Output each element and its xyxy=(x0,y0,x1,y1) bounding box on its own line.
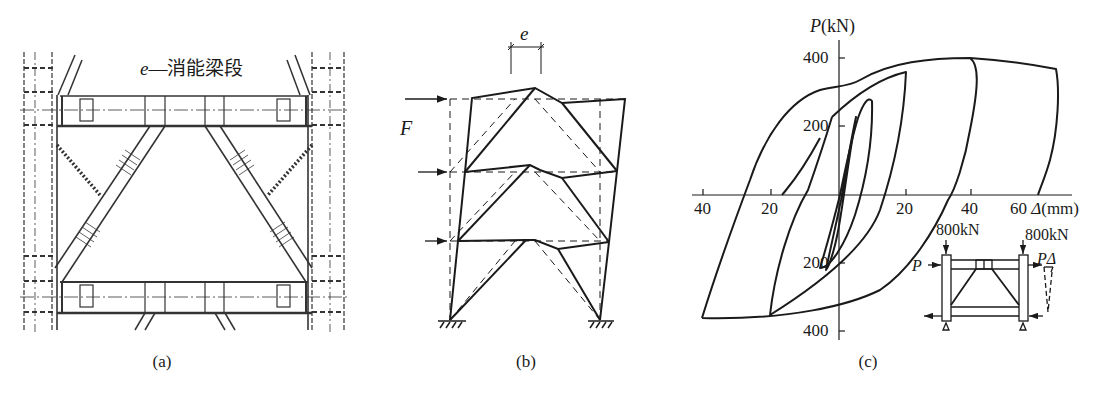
force-right-symbol: P xyxy=(1037,250,1047,267)
x-tick-20-right: 20 xyxy=(896,200,913,217)
x-tick-60: 60 xyxy=(1010,199,1027,218)
load-unit: (kN) xyxy=(821,16,855,36)
annotation-dash: — xyxy=(148,58,167,79)
hysteresis-loop-4-outer xyxy=(970,58,1058,195)
caption-a: (a) xyxy=(132,352,192,372)
y-tick-400-lower: 400 xyxy=(803,322,829,339)
x-axis-label: 60 Δ(mm) xyxy=(1010,200,1079,217)
lateral-force-label: F xyxy=(400,118,412,138)
link-beam-label: 消能梁段 xyxy=(167,57,243,79)
load-symbol: P xyxy=(810,16,821,36)
test-setup-inset xyxy=(924,240,1053,330)
caption-b: (b) xyxy=(496,352,556,372)
panel-a: e—消能梁段 (a) xyxy=(0,0,370,399)
panel-c: P(kN) 400 200 200 400 40 20 20 40 60 Δ(m… xyxy=(680,0,1094,399)
link-length-label: e xyxy=(520,24,528,43)
displacement-symbol: Δ xyxy=(1031,199,1041,218)
lateral-load-right-label: PΔ xyxy=(1037,251,1056,267)
y-tick-400-upper: 400 xyxy=(803,49,829,66)
y-tick-200-lower: 200 xyxy=(803,254,829,271)
x-tick-40-right: 40 xyxy=(961,200,978,217)
x-tick-20-left: 20 xyxy=(761,200,778,217)
caption-c: (c) xyxy=(838,352,898,372)
y-axis-label: P(kN) xyxy=(810,17,855,35)
axial-load-left-label: 800kN xyxy=(936,222,980,238)
panel-b: e F (b) xyxy=(380,0,670,399)
link-beam-annotation: e—消能梁段 xyxy=(140,59,243,78)
deformed-frame-diagram xyxy=(380,0,670,399)
axial-load-right-label: 800kN xyxy=(1025,227,1069,243)
x-tick-40-left: 40 xyxy=(694,200,711,217)
inset-displacement-symbol: Δ xyxy=(1047,250,1056,267)
y-tick-200-upper: 200 xyxy=(803,117,829,134)
lateral-load-left-label: P xyxy=(912,258,922,274)
displacement-unit: (mm) xyxy=(1041,199,1079,218)
